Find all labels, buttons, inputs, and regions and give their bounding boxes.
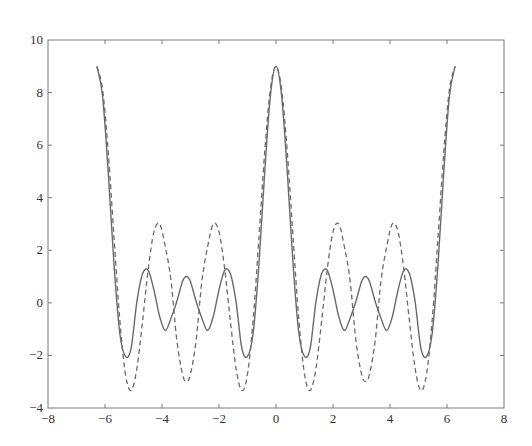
x-tick-label: 2 — [330, 411, 337, 426]
y-tick-label: 2 — [37, 242, 44, 257]
x-tick-label: 0 — [273, 411, 280, 426]
axes-frame — [48, 40, 504, 408]
plot-area: −8−6−4−202468 −4−20246810 — [29, 32, 507, 426]
y-tick-label: −4 — [29, 400, 43, 415]
x-tick-label: 8 — [501, 411, 508, 426]
x-axis-ticks: −8−6−4−202468 — [41, 40, 507, 426]
y-tick-label: 0 — [37, 295, 44, 310]
series-solid-line — [97, 66, 455, 357]
y-tick-label: 8 — [37, 85, 44, 100]
x-tick-label: −6 — [98, 411, 112, 426]
x-tick-label: −2 — [212, 411, 226, 426]
y-tick-label: 4 — [37, 190, 44, 205]
line-chart: −8−6−4−202468 −4−20246810 — [0, 0, 532, 446]
y-tick-label: −2 — [29, 347, 43, 362]
y-axis-ticks: −4−20246810 — [29, 32, 504, 415]
x-tick-label: 4 — [387, 411, 394, 426]
x-tick-label: 6 — [444, 411, 451, 426]
y-tick-label: 6 — [37, 137, 44, 152]
x-tick-label: −4 — [155, 411, 169, 426]
series-layer — [97, 66, 455, 390]
y-tick-label: 10 — [30, 32, 43, 47]
x-tick-label: −8 — [41, 411, 55, 426]
series-dashed-line — [97, 66, 455, 390]
